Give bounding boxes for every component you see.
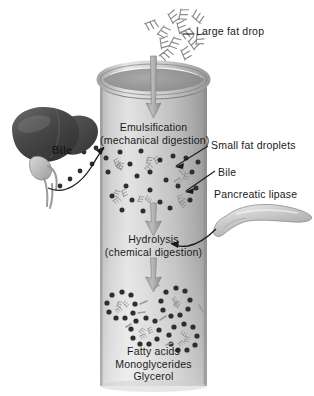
label-bile-right: Bile (218, 166, 236, 179)
label-emulsification-line2: (mechanical digestion) (100, 134, 207, 147)
label-bile-left: Bile (52, 144, 72, 157)
label-emulsification: Emulsification (mechanical digestion) (100, 121, 207, 146)
label-pancreatic-lipase: Pancreatic lipase (214, 188, 297, 201)
label-hydrolysis-line1: Hydrolysis (100, 233, 207, 246)
label-hydrolysis-line2: (chemical digestion) (100, 246, 207, 259)
label-product-glycerol: Glycerol (100, 370, 207, 383)
fat-digestion-figure: Large fat drop Emulsification (mechanica… (0, 0, 314, 396)
label-small-fat-droplets: Small fat droplets (211, 139, 296, 152)
label-product-fatty-acids: Fatty acids (100, 345, 207, 358)
label-emulsification-line1: Emulsification (100, 121, 207, 134)
label-hydrolysis: Hydrolysis (chemical digestion) (100, 233, 207, 258)
label-large-fat-drop: Large fat drop (196, 25, 264, 38)
label-digestion-products: Fatty acids Monoglycerides Glycerol (100, 345, 207, 383)
pancreas-organ (214, 204, 312, 236)
label-product-monoglycerides: Monoglycerides (100, 358, 207, 371)
